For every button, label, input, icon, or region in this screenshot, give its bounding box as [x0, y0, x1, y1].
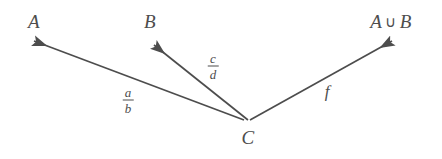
edge-label-a-over-b: a b: [123, 86, 134, 115]
node-label-a: A: [28, 11, 40, 33]
fraction-denominator: d: [208, 67, 219, 81]
arrow-c-to-a-union-b: [250, 41, 392, 120]
arrow-c-to-b: [154, 45, 248, 120]
node-label-a-union-b: A∪B: [370, 11, 412, 33]
node-label-a-union-b-left: A: [370, 11, 382, 32]
diagram-canvas: A B A∪B C a b c d f: [0, 0, 442, 159]
node-label-c: C: [241, 127, 254, 149]
union-operator-icon: ∪: [382, 14, 400, 30]
fraction-c-d: c d: [208, 52, 219, 81]
fraction-numerator: c: [208, 52, 219, 66]
edge-label-f: f: [325, 83, 330, 100]
fraction-numerator: a: [123, 86, 134, 100]
fraction-denominator: b: [123, 101, 134, 115]
node-label-a-union-b-right: B: [400, 11, 412, 32]
fraction-a-b: a b: [123, 86, 134, 115]
edge-label-c-over-d: c d: [208, 52, 219, 81]
node-label-b: B: [144, 11, 156, 33]
